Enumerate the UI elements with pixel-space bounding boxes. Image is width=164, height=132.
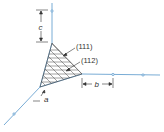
plane-111-hatch [6,22,108,124]
x-axis [4,87,40,125]
y-axis [82,74,160,75]
crystal-diagram: c b a (111) (112) [0,0,164,132]
x-tick-1 [13,113,15,115]
label-plane-112: (112) [81,56,98,65]
plane-112-hatch [30,50,90,82]
y-tick-1 [112,73,114,75]
label-a: a [44,95,49,104]
y-tick-2 [142,74,144,76]
z-tick-1 [51,10,53,12]
leader-111 [63,48,75,56]
label-plane-111: (111) [76,42,93,51]
label-c: c [39,23,43,32]
label-b: b [95,80,100,89]
